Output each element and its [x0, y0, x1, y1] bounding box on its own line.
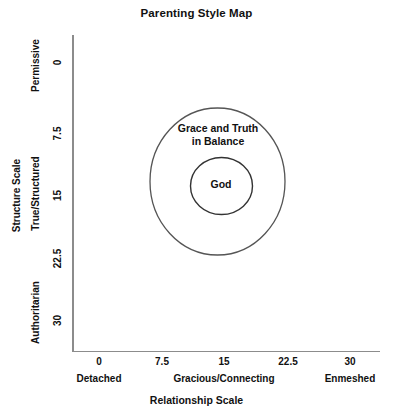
x-category-enmeshed: Enmeshed: [308, 373, 392, 384]
y-tick-0-label: 0: [53, 59, 64, 65]
y-tick-0: 0: [48, 55, 68, 69]
outer-zone-label-line1: Grace and Truth: [147, 122, 289, 135]
y-tick-22-5-label: 22.5: [53, 248, 64, 267]
y-axis-line: [72, 35, 74, 352]
chart-title: Parenting Style Map: [0, 7, 393, 19]
x-tick-7-5: 7.5: [140, 356, 184, 367]
x-category-gracious-connecting: Gracious/Connecting: [150, 373, 298, 384]
parenting-style-map-chart: Parenting Style Map 0 7.5 15 22.5 30 Per…: [0, 0, 393, 419]
y-tick-15-label: 15: [53, 189, 64, 200]
y-tick-7-5-label: 7.5: [53, 126, 64, 140]
y-tick-7-5: 7.5: [48, 126, 68, 140]
y-category-authoritarian-label: Authoritarian: [30, 281, 41, 344]
y-category-permissive: Permissive: [26, 34, 44, 96]
y-category-true-structured-label: True/Structured: [30, 156, 41, 230]
y-tick-22-5: 22.5: [48, 251, 68, 265]
y-category-true-structured: True/Structured: [26, 136, 44, 251]
x-axis-line: [72, 351, 380, 353]
outer-zone-label-line2: in Balance: [147, 135, 289, 148]
x-axis-title: Relationship Scale: [0, 394, 393, 406]
outer-zone-label: Grace and Truth in Balance: [147, 122, 289, 149]
x-category-detached: Detached: [57, 373, 141, 384]
x-tick-0: 0: [77, 356, 121, 367]
y-tick-15: 15: [48, 188, 68, 202]
y-axis-title-label: Structure Scale: [12, 158, 23, 231]
y-axis-title: Structure Scale: [8, 130, 26, 260]
x-tick-15: 15: [202, 356, 246, 367]
x-tick-22-5: 22.5: [266, 356, 310, 367]
y-category-authoritarian: Authoritarian: [26, 269, 44, 355]
inner-zone-label: God: [190, 178, 252, 191]
y-tick-30-label: 30: [53, 314, 64, 325]
x-tick-30: 30: [328, 356, 372, 367]
y-tick-30: 30: [48, 313, 68, 327]
y-category-permissive-label: Permissive: [30, 39, 41, 92]
